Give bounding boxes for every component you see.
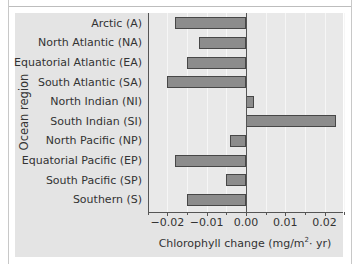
x-tick-label: 0.00	[226, 216, 266, 229]
x-axis-title-pre: Chlorophyll change (mg/m	[159, 237, 305, 250]
gridline	[344, 13, 345, 212]
category-label: South Indian (SI)	[50, 115, 142, 128]
gridline	[167, 13, 168, 212]
bar	[246, 96, 254, 108]
x-axis-title-post: · yr)	[309, 237, 331, 250]
bar	[226, 174, 246, 186]
frame-left-border	[8, 0, 9, 264]
frame-right-border	[351, 0, 352, 264]
bar	[167, 76, 246, 88]
gridline	[305, 13, 306, 212]
category-label: Equatorial Pacific (EP)	[22, 154, 142, 167]
frame-top-border	[8, 6, 351, 7]
bar	[175, 155, 246, 167]
x-tick	[266, 212, 267, 215]
category-label: Arctic (A)	[91, 17, 142, 30]
x-tick-label: −0.02	[147, 216, 187, 229]
category-label: North Pacific (NP)	[46, 134, 142, 147]
x-tick-label: 0.02	[305, 216, 345, 229]
bar	[187, 57, 246, 69]
category-label: South Pacific (SP)	[46, 174, 142, 187]
category-label: North Indian (NI)	[50, 95, 142, 108]
bar	[230, 135, 246, 147]
gridline	[187, 13, 188, 212]
category-label: South Atlantic (SA)	[38, 76, 142, 89]
x-tick-label: −0.01	[187, 216, 227, 229]
x-tick	[344, 212, 345, 215]
y-axis-line	[148, 13, 149, 213]
x-tick	[187, 212, 188, 215]
y-axis-title: Ocean region	[17, 74, 31, 151]
bar	[199, 37, 246, 49]
category-label: North Atlantic (NA)	[38, 36, 142, 49]
x-tick-label: 0.01	[265, 216, 305, 229]
x-tick	[148, 212, 149, 215]
category-label: Southern (S)	[73, 193, 142, 206]
gridline	[285, 13, 286, 212]
x-tick	[226, 212, 227, 215]
gridline	[266, 13, 267, 212]
x-axis-title: Chlorophyll change (mg/m2· yr)	[159, 236, 332, 250]
bar	[246, 115, 336, 127]
category-label: Equatorial Atlantic (EA)	[14, 56, 142, 69]
zero-line	[246, 13, 247, 212]
gridline	[325, 13, 326, 212]
x-tick	[305, 212, 306, 215]
bar	[187, 194, 246, 206]
bar	[175, 17, 246, 29]
